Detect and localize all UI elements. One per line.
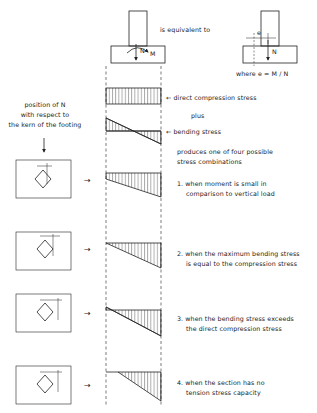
produces-line1: produces one of four possible — [177, 148, 273, 155]
caption-line3: the kern of the footing — [5, 121, 85, 128]
case-3-line2: the direct compression stress — [186, 325, 282, 332]
kern-box-3 — [16, 294, 71, 332]
case-1-line2: comparison to vertical load — [186, 190, 275, 197]
case-3-stress — [106, 307, 161, 336]
bending-stress-diagram — [106, 118, 161, 144]
direct-compression-label: ← direct compression stress — [166, 94, 257, 101]
direct-compression-diagram — [106, 88, 161, 104]
equivalent-label: is equivalent to — [160, 26, 210, 33]
footing-eccentric — [243, 11, 297, 66]
plus-label: plus — [191, 112, 204, 119]
arrow-icon-2: → — [84, 245, 91, 254]
arrow-icon-1: → — [84, 176, 91, 185]
force-N-label: N — [140, 47, 145, 54]
produces-line2: stress combinations — [177, 158, 242, 165]
kern-box-1 — [16, 160, 71, 198]
kern-box-2 — [16, 232, 71, 270]
case-4-stress — [106, 372, 161, 401]
case-1-stress — [106, 173, 161, 197]
arrow-icon-3: → — [84, 309, 91, 318]
case-2-stress — [106, 243, 161, 268]
ecc-e-label: e — [257, 29, 261, 36]
caption-line1: position of N — [5, 101, 85, 108]
where-label: where e = M / N — [236, 70, 288, 77]
footing-with-moment — [111, 11, 165, 63]
case-2-line1: 2. when the maximum bending stress — [177, 250, 300, 257]
bending-stress-label: ← bending stress — [166, 128, 221, 135]
arrow-icon-4: → — [84, 381, 91, 390]
kern-box-4 — [16, 366, 71, 404]
caption-line2: with respect to — [5, 111, 85, 118]
case-4-line1: 4. when the section has no — [177, 379, 265, 386]
case-3-line1: 3. when the bending stress exceeds — [177, 315, 294, 322]
diagram-graphics — [0, 0, 317, 413]
case-2-line2: is equal to the compression stress — [186, 260, 297, 267]
moment-M-label: M — [150, 50, 156, 57]
force-N-right-label: N — [272, 48, 277, 55]
case-4-line2: tension stress capacity — [186, 389, 261, 396]
case-1-line1: 1. when moment is small in — [177, 180, 267, 187]
